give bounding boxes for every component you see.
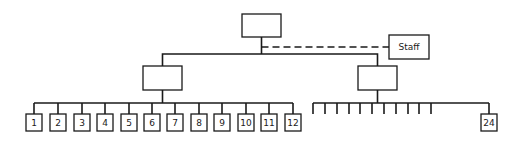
right-children-group: 24 [313, 90, 497, 131]
child-label: 9 [219, 118, 225, 128]
org-chart: Staff 123456789101112 24 [0, 0, 524, 144]
staff-node-label: Staff [399, 42, 421, 52]
child-label: 1 [31, 118, 37, 128]
top-node-box [242, 14, 281, 37]
mid-node-left-box [143, 66, 182, 90]
child-label: 2 [55, 118, 61, 128]
mid-node-right-box [358, 66, 397, 90]
child-label: 4 [102, 118, 108, 128]
child-label: 7 [172, 118, 178, 128]
child-label-24: 24 [483, 118, 495, 128]
child-label: 12 [287, 118, 298, 128]
child-label: 8 [196, 118, 202, 128]
child-label: 3 [79, 118, 85, 128]
left-children-group: 123456789101112 [26, 90, 301, 131]
connector-lines [163, 37, 390, 66]
child-label: 11 [263, 118, 274, 128]
child-label: 6 [149, 118, 155, 128]
child-label: 10 [240, 118, 252, 128]
mid-connector [163, 54, 378, 66]
child-label: 5 [126, 118, 132, 128]
